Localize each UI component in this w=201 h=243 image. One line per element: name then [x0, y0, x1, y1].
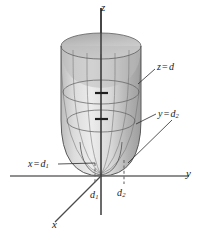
trace-label-x: x=d1	[28, 159, 49, 170]
paraboloid-figure: z y x z=d y=d2 x=d1 d1 d2	[0, 0, 201, 243]
trace-y-lhs: y	[158, 108, 162, 119]
trace-z-rhs: d	[169, 61, 174, 72]
trace-z-lhs: z	[157, 61, 161, 72]
trace-label-z: z=d	[157, 62, 174, 72]
trace-z-operator: =	[162, 61, 168, 72]
tick-d1-subscript: 1	[95, 193, 98, 200]
trace-x-subscript: 1	[46, 162, 49, 169]
x-axis-label: x	[52, 219, 57, 230]
trace-label-y: y=d2	[158, 109, 179, 120]
z-axis-label: z	[101, 2, 105, 13]
y-axis-label: y	[186, 168, 191, 179]
figure-graphic	[0, 0, 201, 243]
trace-x-operator: =	[34, 158, 40, 169]
tick-d2-subscript: 2	[122, 191, 125, 198]
trace-x-rhs: d	[40, 158, 45, 169]
tick-label-d1: d1	[90, 190, 98, 201]
trace-x-lhs: x	[28, 158, 32, 169]
trace-y-operator: =	[164, 108, 170, 119]
trace-y-rhs: d	[170, 108, 175, 119]
trace-y-subscript: 2	[176, 112, 179, 119]
tick-label-d2: d2	[117, 188, 125, 199]
